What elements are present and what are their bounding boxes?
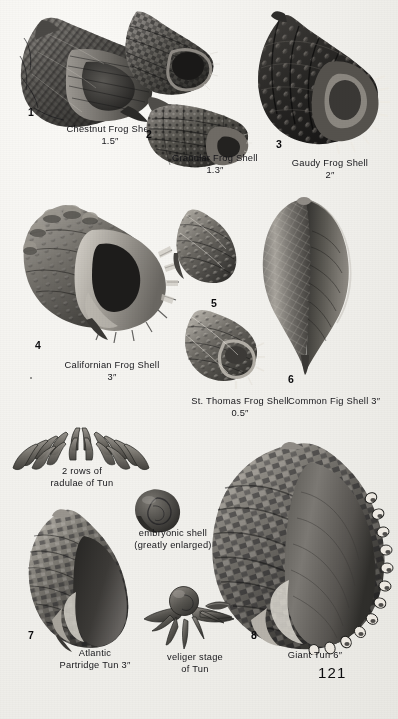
figure-giant-tun xyxy=(205,440,395,655)
caption-radulae-of-tun: 2 rows of radulae of Tun xyxy=(22,466,142,489)
plate-speck xyxy=(30,377,32,379)
figure-number-4: 4 xyxy=(35,339,41,351)
caption-common-fig-shell: Common Fig Shell 3″ xyxy=(288,396,398,408)
figure-number-6: 6 xyxy=(288,373,294,385)
caption-giant-tun: Giant Tun 6″ xyxy=(255,650,375,662)
figure-californian-frog-shell xyxy=(14,200,184,350)
caption-gaudy-frog-shell: Gaudy Frog Shell 2″ xyxy=(265,158,395,181)
caption-veliger-stage: veliger stage of Tun xyxy=(145,652,245,675)
figure-number-1: 1 xyxy=(28,106,34,118)
figure-number-2: 2 xyxy=(146,128,152,140)
caption-californian-frog-shell: Californian Frog Shell 3″ xyxy=(42,360,182,383)
figure-st-thomas-frog-shell-top xyxy=(172,205,242,290)
page-number: 121 xyxy=(318,664,347,681)
figure-number-8: 8 xyxy=(251,629,257,641)
figure-radulae-of-tun xyxy=(8,424,153,472)
shell-fragment xyxy=(203,598,233,614)
figure-number-7: 7 xyxy=(28,629,34,641)
figure-granular-frog-shell-spire xyxy=(112,10,222,102)
figure-atlantic-partridge-tun xyxy=(22,508,134,653)
figure-common-fig-shell xyxy=(252,195,364,375)
figure-gaudy-frog-shell xyxy=(245,10,390,160)
figure-number-3: 3 xyxy=(276,138,282,150)
plate-page: 1 Chestnut Frog Shell 1.5″ xyxy=(0,0,398,719)
caption-st-thomas-frog-shell: St. Thomas Frog Shell 0.5″ xyxy=(175,396,305,419)
caption-atlantic-partridge-tun: Atlantic Partridge Tun 3″ xyxy=(25,648,165,671)
